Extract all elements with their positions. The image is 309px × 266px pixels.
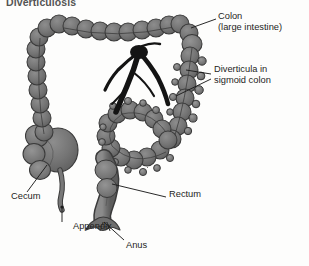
label-colon-line2: (large intestine) [218,22,282,33]
rectum [95,158,117,222]
label-appendix-line1: Appendix [73,221,112,232]
label-diverticula-line2: sigmoid colon [214,75,271,86]
label-anus-line1: Anus [126,240,147,251]
colon-anatomy-illustration [0,0,309,266]
label-rectum: Rectum [169,189,201,200]
diverticulosis-figure: Diverticulosis [0,0,309,266]
label-diverticula-line1: Diverticula in [214,64,271,75]
label-colon-line1: Colon [218,11,282,22]
label-diverticula: Diverticula in sigmoid colon [214,64,271,87]
label-appendix: Appendix [73,221,112,232]
leader-colon [191,19,216,28]
transverse-colon [63,16,178,41]
leader-rectum [112,184,166,197]
label-cecum-line1: Cecum [11,191,40,202]
mesenteric-vessels [105,43,168,112]
label-colon: Colon (large intestine) [218,11,282,34]
label-anus: Anus [126,240,147,251]
label-rectum-line1: Rectum [169,189,201,200]
label-cecum: Cecum [11,191,40,202]
ascending-colon [27,28,53,141]
appendix [60,170,62,210]
